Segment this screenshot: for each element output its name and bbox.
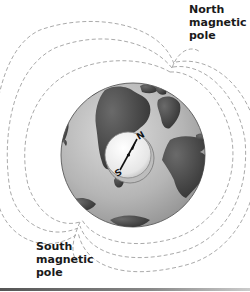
- label-line: North: [189, 3, 247, 16]
- label-line: magnetic: [189, 16, 247, 29]
- north-magnetic-pole-label: North magnetic pole: [189, 3, 247, 42]
- label-line: pole: [36, 266, 94, 279]
- label-line: South: [36, 240, 94, 253]
- label-line: pole: [189, 29, 247, 42]
- label-line: magnetic: [36, 253, 94, 266]
- south-magnetic-pole-label: South magnetic pole: [36, 240, 94, 279]
- bottom-divider: [0, 288, 250, 291]
